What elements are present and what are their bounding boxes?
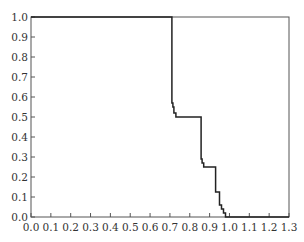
y-tick-label: 0.8 <box>11 51 28 63</box>
y-tick-label: 0.3 <box>11 151 28 163</box>
step-curve <box>31 17 289 217</box>
y-tick-label: 0.2 <box>11 171 28 183</box>
x-tick-label: 0.5 <box>122 221 139 233</box>
plot-frame <box>31 17 289 217</box>
y-tick-label: 0.9 <box>11 31 28 43</box>
x-axis-ticks: 0.00.10.20.30.40.50.60.70.80.91.01.11.21… <box>23 213 298 233</box>
y-tick-label: 0.7 <box>11 71 28 83</box>
x-tick-label: 1.0 <box>221 221 238 233</box>
x-tick-label: 0.7 <box>162 221 179 233</box>
y-tick-label: 1.0 <box>11 11 28 23</box>
x-tick-label: 0.1 <box>42 221 59 233</box>
y-tick-label: 0.5 <box>11 111 28 123</box>
x-tick-label: 0.4 <box>102 221 119 233</box>
y-tick-label: 0.6 <box>11 91 28 103</box>
x-tick-label: 0.2 <box>62 221 79 233</box>
x-tick-label: 0.3 <box>82 221 99 233</box>
x-tick-label: 1.1 <box>241 221 258 233</box>
step-chart: 0.00.10.20.30.40.50.60.70.80.91.0 0.00.1… <box>0 0 304 242</box>
x-tick-label: 1.2 <box>261 221 278 233</box>
x-tick-label: 0.6 <box>142 221 159 233</box>
x-tick-label: 0.9 <box>201 221 218 233</box>
x-tick-label: 0.0 <box>23 221 40 233</box>
x-tick-label: 0.8 <box>181 221 198 233</box>
x-tick-label: 1.3 <box>281 221 298 233</box>
y-tick-label: 0.1 <box>11 191 28 203</box>
y-tick-label: 0.4 <box>11 131 28 143</box>
